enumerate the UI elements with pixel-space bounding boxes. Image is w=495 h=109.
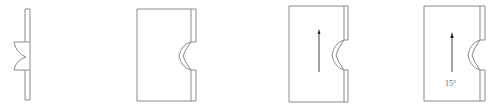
figure-1-narrow-strip bbox=[14, 9, 30, 100]
figure-4-panel-with-angle: 15° bbox=[424, 6, 485, 101]
figure-2-panel bbox=[137, 9, 196, 101]
figure-3-panel-with-arrow bbox=[289, 6, 348, 102]
diagram-canvas: 15° bbox=[0, 0, 495, 109]
angle-label: 15° bbox=[445, 79, 456, 88]
